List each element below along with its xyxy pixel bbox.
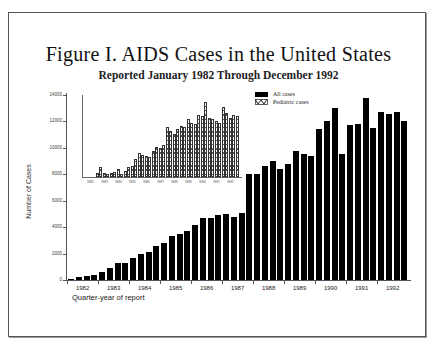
bar <box>262 166 268 280</box>
x-tick-mark <box>346 280 347 284</box>
x-axis <box>66 280 411 281</box>
x-tick-label: 1983 <box>99 285 129 291</box>
y-tick-mark <box>63 227 66 228</box>
bar <box>99 272 105 280</box>
x-tick-label: 1984 <box>130 285 160 291</box>
legend-item-pediatric-cases: Pediatric cases <box>255 98 308 106</box>
y-axis <box>66 93 67 280</box>
legend-label: All cases <box>273 91 295 97</box>
bar <box>378 112 384 280</box>
inset-x-tick-label: 1985 <box>126 180 138 184</box>
y-tick-mark <box>63 174 66 175</box>
x-tick-mark <box>98 280 99 284</box>
bar <box>301 154 307 280</box>
x-tick-mark <box>129 280 130 284</box>
x-tick-mark <box>67 280 68 284</box>
x-tick-mark <box>377 280 378 284</box>
bar <box>285 164 291 280</box>
bar <box>138 254 144 280</box>
bar <box>394 112 400 280</box>
bar <box>332 108 338 280</box>
inset-x-tick-label: 1982 <box>84 180 96 184</box>
bar <box>91 275 97 280</box>
legend-item-all-cases: All cases <box>255 90 308 98</box>
y-tick-label: 8000 <box>38 171 62 176</box>
y-tick-label: 6000 <box>38 198 62 203</box>
bar <box>192 225 198 281</box>
y-tick-label: 14000 <box>38 92 62 97</box>
bar <box>246 174 252 280</box>
bar <box>107 268 113 280</box>
bar <box>324 121 330 280</box>
bar <box>169 236 175 280</box>
inset-x-tick-label: 1992 <box>224 180 236 184</box>
x-tick-label: 1992 <box>378 285 408 291</box>
inset-x-tick-label: 1986 <box>140 180 152 184</box>
bar <box>177 234 183 280</box>
x-tick-mark <box>253 280 254 284</box>
hatched-swatch-icon <box>255 99 268 105</box>
solid-swatch-icon <box>255 92 268 97</box>
inset-x-tick-label: 1984 <box>112 180 124 184</box>
x-axis-label: Quarter-year of report <box>72 293 145 302</box>
bar <box>347 125 353 280</box>
y-tick-label: 10000 <box>38 145 62 150</box>
x-tick-label: 1991 <box>347 285 377 291</box>
chart-subtitle: Reported January 1982 Through December 1… <box>0 69 437 81</box>
bar <box>208 218 214 280</box>
inset-x-tick-label: 1987 <box>154 180 166 184</box>
y-axis-label: Number of Cases <box>25 152 32 232</box>
x-tick-label: 1988 <box>254 285 284 291</box>
y-tick-label: 12000 <box>38 118 62 123</box>
x-tick-mark <box>160 280 161 284</box>
bar <box>161 243 167 280</box>
bar <box>153 246 159 280</box>
inset-x-tick-label: 1989 <box>182 180 194 184</box>
chart-title: Figure I. AIDS Cases in the United State… <box>0 43 437 66</box>
bar <box>215 215 221 280</box>
x-tick-label: 1982 <box>68 285 98 291</box>
bar <box>115 263 121 280</box>
bar <box>130 258 136 280</box>
inset-x-axis <box>82 177 242 178</box>
inset-x-tick-label: 1991 <box>210 180 222 184</box>
bar <box>308 156 314 280</box>
bar <box>293 151 299 281</box>
legend: All cases Pediatric cases <box>255 90 308 106</box>
pediatric-inset-chart: 1982198319841985198619871988198919901991… <box>82 95 242 177</box>
bar <box>401 121 407 280</box>
bar <box>223 214 229 280</box>
bar <box>316 129 322 280</box>
bar <box>339 154 345 280</box>
bar <box>363 98 369 280</box>
bar <box>370 128 376 280</box>
y-tick-mark <box>63 95 66 96</box>
bar <box>122 263 128 280</box>
y-tick-mark <box>63 201 66 202</box>
bar <box>146 252 152 280</box>
bar <box>200 218 206 280</box>
inset-x-tick-label: 1990 <box>196 180 208 184</box>
bar <box>231 217 237 280</box>
bar <box>277 169 283 280</box>
y-tick-mark <box>63 121 66 122</box>
x-tick-label: 1990 <box>316 285 346 291</box>
y-tick-mark <box>63 280 66 281</box>
x-tick-label: 1986 <box>192 285 222 291</box>
bar <box>270 161 276 280</box>
x-tick-label: 1987 <box>223 285 253 291</box>
y-tick-label: 2000 <box>38 251 62 256</box>
y-tick-label: 4000 <box>38 224 62 229</box>
y-tick-mark <box>63 254 66 255</box>
bar <box>254 174 260 280</box>
bar <box>84 276 90 280</box>
bar <box>355 124 361 280</box>
x-tick-mark <box>284 280 285 284</box>
bar <box>239 213 245 280</box>
bar <box>386 114 392 281</box>
y-tick-label: 0 <box>38 277 62 282</box>
inset-bar <box>236 116 239 177</box>
x-tick-mark <box>315 280 316 284</box>
x-tick-label: 1989 <box>285 285 315 291</box>
bar <box>68 279 74 280</box>
